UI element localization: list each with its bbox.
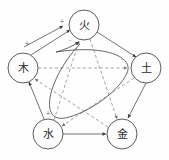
wuxing-diagram: + + - - + 火 木 土 水 金 bbox=[0, 0, 169, 160]
edge-earth-to-metal bbox=[128, 83, 146, 118]
sign-label-1: + bbox=[24, 39, 29, 46]
edge-water-to-fire bbox=[54, 41, 79, 120]
node-fire-label: 火 bbox=[79, 19, 90, 32]
node-water[interactable]: 水 bbox=[33, 119, 63, 149]
sign-label-3: - bbox=[121, 55, 123, 62]
sign-label-0: + bbox=[59, 17, 64, 24]
sign-label-2: - bbox=[69, 36, 71, 43]
central-loop-curve bbox=[49, 44, 128, 118]
node-water-label: 水 bbox=[43, 128, 54, 141]
node-fire[interactable]: 火 bbox=[69, 10, 99, 40]
node-metal[interactable]: 金 bbox=[107, 119, 137, 149]
wuxing-diagram-canvas: + + - - + 火 木 土 水 金 bbox=[0, 0, 169, 160]
solid-edge-group bbox=[24, 26, 146, 134]
node-earth-label: 土 bbox=[141, 62, 152, 75]
edge-fire-to-earth bbox=[97, 32, 136, 57]
sign-label-4: + bbox=[45, 109, 50, 116]
node-wood[interactable]: 木 bbox=[8, 53, 38, 83]
central-loop-group bbox=[49, 42, 128, 118]
node-earth[interactable]: 土 bbox=[131, 53, 161, 83]
edge-wood-to-fire-secondary bbox=[24, 26, 63, 47]
edge-water-to-wood bbox=[29, 82, 44, 119]
node-metal-label: 金 bbox=[117, 127, 128, 141]
node-wood-label: 木 bbox=[18, 62, 29, 75]
